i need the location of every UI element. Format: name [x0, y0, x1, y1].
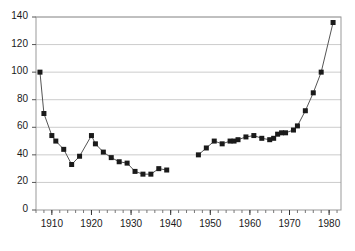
data-point-marker — [53, 139, 58, 144]
y-axis-tick-label: 140 — [0, 10, 28, 21]
data-point-marker — [125, 161, 130, 166]
data-point-marker — [331, 20, 336, 25]
y-axis-tick-label: 40 — [0, 148, 28, 159]
chart-plot-area — [0, 0, 355, 251]
data-point-marker — [319, 70, 324, 75]
data-point-marker — [243, 134, 248, 139]
data-point-marker — [156, 166, 161, 171]
line-chart: 0204060801001201401910192019301940195019… — [0, 0, 355, 251]
data-point-marker — [204, 145, 209, 150]
data-point-marker — [295, 123, 300, 128]
y-axis-tick-label: 80 — [0, 93, 28, 104]
y-axis-tick-label: 120 — [0, 38, 28, 49]
y-axis-tick-label: 20 — [0, 175, 28, 186]
data-point-marker — [77, 154, 82, 159]
x-axis-tick-label: 1980 — [304, 218, 354, 229]
data-line-pre-war — [40, 72, 167, 174]
data-point-marker — [37, 70, 42, 75]
data-point-marker — [303, 108, 308, 113]
data-point-marker — [283, 130, 288, 135]
data-point-marker — [101, 150, 106, 155]
data-point-marker — [251, 133, 256, 138]
data-point-marker — [89, 133, 94, 138]
data-point-marker — [164, 168, 169, 173]
data-point-marker — [220, 141, 225, 146]
y-axis-tick-label: 60 — [0, 120, 28, 131]
data-point-marker — [148, 172, 153, 177]
data-line-post-war — [198, 23, 333, 155]
y-axis-tick-label: 100 — [0, 65, 28, 76]
data-point-marker — [49, 133, 54, 138]
data-point-marker — [117, 159, 122, 164]
data-point-marker — [109, 155, 114, 160]
data-point-marker — [259, 136, 264, 141]
data-point-marker — [140, 172, 145, 177]
data-point-marker — [236, 137, 241, 142]
data-point-marker — [61, 147, 66, 152]
data-point-marker — [133, 169, 138, 174]
data-point-marker — [93, 141, 98, 146]
data-point-marker — [41, 111, 46, 116]
data-point-marker — [196, 152, 201, 157]
data-point-marker — [212, 139, 217, 144]
y-axis-tick-label: 0 — [0, 203, 28, 214]
data-point-marker — [311, 90, 316, 95]
plot-frame — [36, 17, 341, 210]
data-point-marker — [69, 162, 74, 167]
